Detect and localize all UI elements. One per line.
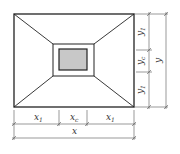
dim-label-y1-bottom: y1 bbox=[135, 85, 146, 95]
foundation-plan-diagram: y1 yc y1 y x1 xc x1 x bbox=[0, 0, 180, 154]
dim-label-x-total: x bbox=[72, 126, 77, 136]
hip-line-bottom-right bbox=[94, 76, 134, 107]
dim-label-x1-right: x1 bbox=[106, 112, 115, 123]
dim-label-xc: xc bbox=[70, 112, 79, 123]
column-section bbox=[59, 49, 87, 70]
dim-label-yc: yc bbox=[135, 56, 146, 66]
hip-line-bottom-left bbox=[14, 76, 53, 107]
dim-label-y-total: y bbox=[153, 57, 163, 64]
dim-label-x1-left: x1 bbox=[34, 112, 43, 123]
hip-line-top-right bbox=[94, 14, 134, 44]
hip-line-top-left bbox=[14, 14, 53, 44]
dim-label-y1-top: y1 bbox=[135, 27, 146, 37]
